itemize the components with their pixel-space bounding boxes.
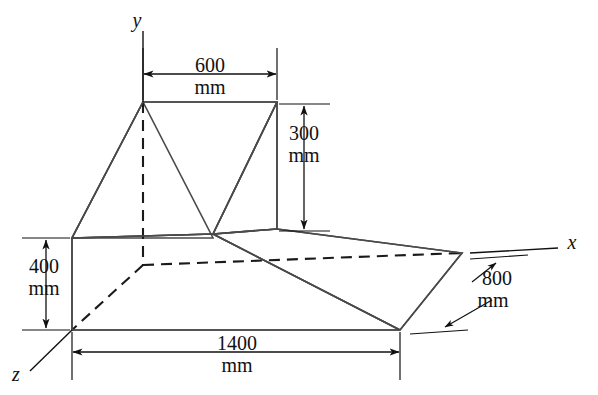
dim-label-600-unit: mm [194, 76, 226, 98]
hidden-edge-horizontal [143, 253, 462, 265]
outline-top [72, 102, 462, 330]
axes-group: y x z [11, 9, 576, 385]
x-axis-label: x [567, 231, 577, 253]
dim-label-400-unit: mm [28, 277, 60, 299]
ref-line-800-upper [470, 255, 528, 259]
top-face [72, 102, 277, 238]
hidden-edge-diagonal [72, 265, 143, 330]
ref-line-800-lower [410, 330, 468, 334]
z-axis-line [30, 330, 72, 371]
edge-center-to-wedge-bottom [213, 234, 400, 330]
wedge-top-face [213, 229, 462, 330]
solid-body-diagram: y x z 600 mm 300 mm 400 m [0, 0, 598, 395]
dim-label-1400-unit: mm [221, 354, 253, 376]
solid-body [72, 102, 462, 330]
dimension-1400: 1400 mm [72, 332, 400, 380]
dimension-600: 600 mm [143, 48, 277, 100]
x-axis-line [470, 248, 558, 253]
edge-center-to-wedge-right [213, 229, 277, 234]
dimension-400: 400 mm [22, 238, 70, 330]
dim-label-800-unit: mm [477, 289, 509, 311]
figure-root: y x z 600 mm 300 mm 400 m [0, 0, 598, 395]
edge-topface-right [213, 102, 277, 234]
y-axis-label: y [131, 9, 142, 32]
dim-label-300-unit: mm [288, 144, 320, 166]
dim-label-1400-value: 1400 [217, 332, 257, 354]
dimension-300: 300 mm [279, 104, 330, 231]
dim-label-300-value: 300 [289, 122, 319, 144]
dim-label-400-value: 400 [29, 255, 59, 277]
front-face [72, 234, 400, 330]
dim-label-600-value: 600 [195, 54, 225, 76]
dim-label-800-value: 800 [482, 267, 512, 289]
z-axis-label: z [11, 363, 20, 385]
